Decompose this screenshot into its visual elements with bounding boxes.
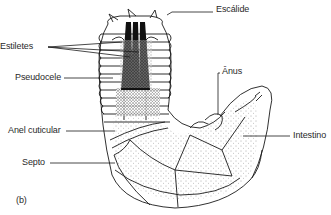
label-intestino: Intestino [293, 130, 326, 140]
leader-estiletes-2 [48, 47, 130, 57]
leader-estiletes-1 [48, 42, 122, 47]
worm-diagram [0, 0, 331, 215]
label-escalide: Escálide [216, 4, 249, 14]
label-pseudocele: Pseudocele [15, 72, 61, 82]
leader-escalide [167, 12, 213, 15]
label-anus: Ânus [222, 66, 242, 76]
anterior-intestine-fill [116, 88, 160, 116]
label-septo: Septo [22, 157, 45, 167]
label-estiletes: Estiletes [0, 41, 33, 51]
label-anel-cuticular: Anel cuticular [8, 125, 61, 135]
leader-anus [218, 73, 220, 115]
stylet-sheath-texture [120, 40, 152, 88]
panel-label: (b) [16, 195, 27, 205]
